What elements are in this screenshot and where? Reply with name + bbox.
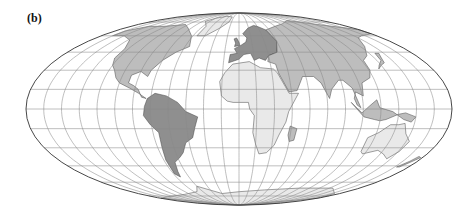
region-japan	[375, 53, 384, 69]
region-greenland	[197, 16, 232, 36]
land-layer	[113, 16, 421, 205]
graticule	[26, 13, 452, 205]
world-map	[0, 0, 473, 222]
region-indonesia	[351, 100, 416, 122]
